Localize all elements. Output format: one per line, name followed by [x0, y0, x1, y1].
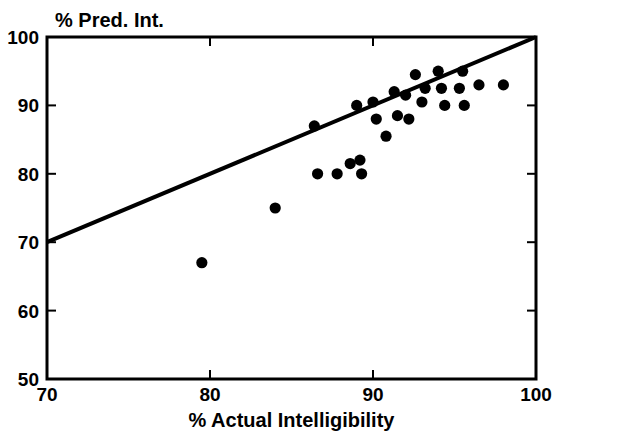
x-tick-label: 70 — [36, 384, 57, 405]
data-point — [416, 96, 427, 107]
scatter-plot-figure: 5060708090100708090100% Pred. Int.% Actu… — [0, 0, 639, 444]
y-tick-label: 80 — [18, 164, 39, 185]
data-point — [433, 66, 444, 77]
y-axis-title: % Pred. Int. — [55, 9, 164, 31]
x-tick-label: 80 — [199, 384, 220, 405]
plot-canvas: 5060708090100708090100% Pred. Int.% Actu… — [0, 0, 639, 444]
data-point — [356, 168, 367, 179]
data-point — [439, 100, 450, 111]
data-point — [371, 113, 382, 124]
data-point — [367, 96, 378, 107]
data-point — [459, 100, 470, 111]
y-tick-label: 90 — [18, 95, 39, 116]
data-point — [498, 79, 509, 90]
data-point — [410, 69, 421, 80]
data-point — [354, 155, 365, 166]
data-point — [380, 131, 391, 142]
data-point — [457, 66, 468, 77]
data-point — [420, 83, 431, 94]
data-point — [436, 83, 447, 94]
data-point — [400, 90, 411, 101]
data-point — [389, 86, 400, 97]
y-tick-label: 100 — [7, 27, 39, 48]
data-point — [196, 257, 207, 268]
x-tick-label: 90 — [362, 384, 383, 405]
data-point — [345, 158, 356, 169]
data-point — [270, 202, 281, 213]
y-tick-label: 70 — [18, 232, 39, 253]
data-point — [454, 83, 465, 94]
data-point — [351, 100, 362, 111]
data-point — [309, 120, 320, 131]
data-point — [403, 113, 414, 124]
x-axis-title: % Actual Intelligibility — [189, 409, 396, 431]
data-point — [392, 110, 403, 121]
data-point — [312, 168, 323, 179]
x-tick-label: 100 — [520, 384, 552, 405]
data-point — [332, 168, 343, 179]
y-tick-label: 60 — [18, 301, 39, 322]
data-point — [473, 79, 484, 90]
